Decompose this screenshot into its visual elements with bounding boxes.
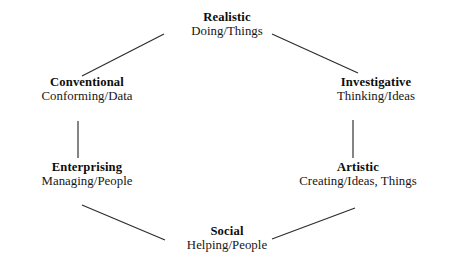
node-social: Social Helping/People	[187, 225, 267, 252]
node-conventional: Conventional Conforming/Data	[41, 76, 132, 103]
node-artistic-subtitle: Creating/Ideas, Things	[299, 175, 416, 188]
node-artistic: Artistic Creating/Ideas, Things	[299, 161, 416, 188]
node-social-title: Social	[187, 225, 267, 238]
node-realistic-subtitle: Doing/Things	[191, 25, 263, 38]
node-enterprising-title: Enterprising	[41, 161, 132, 174]
node-artistic-title: Artistic	[299, 161, 416, 174]
node-realistic: Realistic Doing/Things	[191, 11, 263, 38]
node-investigative: Investigative Thinking/Ideas	[337, 76, 415, 103]
node-investigative-subtitle: Thinking/Ideas	[337, 90, 415, 103]
node-realistic-title: Realistic	[191, 11, 263, 24]
node-enterprising-subtitle: Managing/People	[41, 175, 132, 188]
node-investigative-title: Investigative	[337, 76, 415, 89]
node-conventional-subtitle: Conforming/Data	[41, 90, 132, 103]
edge-realistic-investigative	[272, 34, 358, 73]
node-social-subtitle: Helping/People	[187, 239, 267, 252]
node-conventional-title: Conventional	[41, 76, 132, 89]
riasec-hexagon-diagram: Realistic Doing/Things Investigative Thi…	[0, 0, 452, 273]
node-enterprising: Enterprising Managing/People	[41, 161, 132, 188]
edge-artistic-social	[272, 208, 355, 239]
edge-conventional-realistic	[82, 34, 164, 76]
edge-social-enterprising	[82, 205, 165, 240]
